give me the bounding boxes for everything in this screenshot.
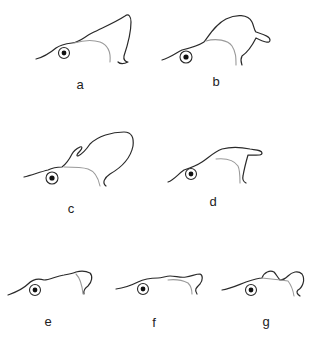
panel-g-label: g	[262, 314, 269, 329]
panel-b-outline	[162, 16, 270, 65]
panel-d-label: d	[209, 194, 216, 209]
panel-d-pupil	[189, 172, 194, 177]
panel-f-label: f	[152, 315, 156, 330]
panel-c-inner-contour	[64, 167, 100, 186]
panel-b: b	[162, 16, 270, 89]
panel-g-outline	[222, 271, 304, 296]
panel-g-pupil	[249, 288, 254, 293]
panel-a-outline	[36, 15, 131, 64]
panel-c: c	[24, 132, 133, 216]
panel-f-pupil	[141, 287, 146, 292]
panel-c-outline	[24, 132, 133, 186]
panel-b-label: b	[212, 74, 219, 89]
panel-f-inner-contour	[168, 280, 192, 294]
panel-b-pupil	[183, 54, 188, 59]
panel-b-inner-contour	[206, 40, 236, 65]
panel-g-inner-contour	[262, 278, 294, 296]
panel-c-pupil	[49, 175, 54, 180]
panel-d: d	[168, 148, 262, 210]
panel-a-pupil	[62, 51, 67, 56]
panel-f: f	[116, 274, 202, 330]
panel-e-outline	[8, 271, 92, 295]
panel-a-inner-contour	[74, 41, 110, 62]
panel-a: a	[36, 15, 131, 92]
panel-e-inner-contour	[76, 274, 83, 294]
panel-e-label: e	[44, 314, 51, 329]
panel-g: g	[222, 271, 304, 329]
panel-e: e	[8, 271, 92, 329]
panel-d-inner-contour	[216, 159, 240, 183]
panel-c-label: c	[68, 201, 75, 216]
crest-diagram: a b c d e f	[0, 0, 317, 341]
panel-d-outline	[168, 148, 262, 184]
panel-e-pupil	[33, 288, 38, 293]
panel-a-label: a	[76, 77, 84, 92]
